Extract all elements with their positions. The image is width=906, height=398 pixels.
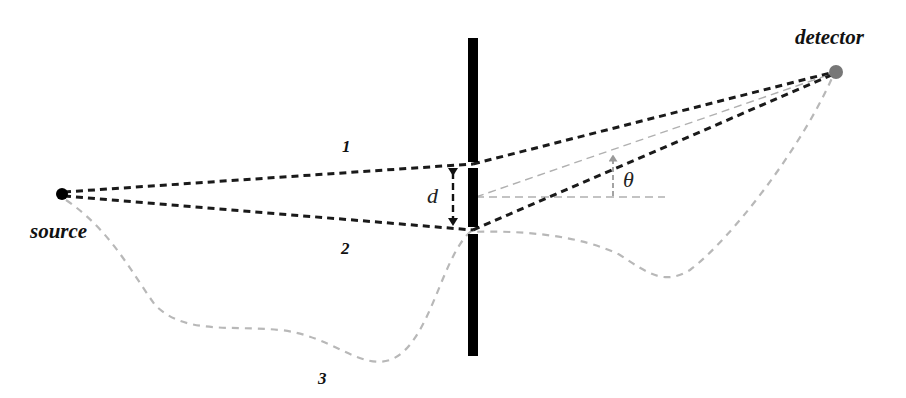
double-slit-diagram: source detector 1 2 3 d θ	[0, 0, 906, 398]
angle-label: θ	[623, 167, 634, 192]
diagram-svg: source detector 1 2 3 d θ	[0, 0, 906, 398]
path-3-curve	[66, 78, 832, 362]
detector-label: detector	[795, 25, 865, 49]
slit-separation-label: d	[427, 183, 439, 208]
path-2-right	[473, 74, 834, 230]
path-1-left	[64, 164, 473, 192]
barrier-middle	[468, 168, 478, 227]
barrier-top	[468, 38, 478, 162]
barrier-bottom	[468, 234, 478, 356]
path-2-label: 2	[340, 239, 350, 258]
center-to-detector-line	[476, 73, 834, 197]
path-1-right	[473, 72, 834, 164]
path-3-label: 3	[317, 369, 327, 388]
path-1-label: 1	[342, 137, 351, 156]
source-dot	[56, 188, 68, 200]
path-2-left	[64, 196, 473, 230]
source-label: source	[29, 219, 87, 243]
detector-dot	[829, 65, 843, 79]
